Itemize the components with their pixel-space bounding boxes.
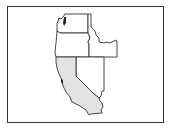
state-washington[interactable] [57,14,88,33]
state-oregon[interactable] [55,31,90,57]
western-us-map [0,0,173,129]
state-idaho[interactable] [88,14,117,57]
